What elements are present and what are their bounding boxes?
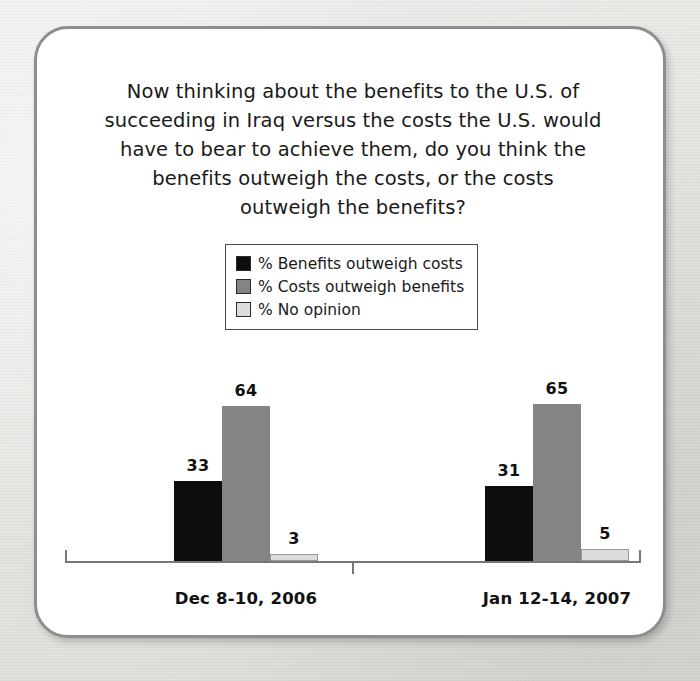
- bar-value-label: 3: [254, 529, 334, 548]
- category-axis-label: Dec 8-10, 2006: [104, 589, 388, 608]
- bar-value-label: 64: [206, 381, 286, 400]
- bar-chart-plot-area: 33643Dec 8-10, 200631655Jan 12-14, 2007: [37, 29, 666, 638]
- axis-tick-center-divider: [352, 563, 354, 574]
- bar-3-group-1: [270, 554, 318, 561]
- bar-1-group-1: [174, 481, 222, 561]
- bar-value-label: 65: [517, 379, 597, 398]
- axis-tick-right: [639, 550, 641, 561]
- axis-tick-left: [65, 550, 67, 561]
- category-axis-label: Jan 12-14, 2007: [415, 589, 666, 608]
- bar-value-label: 5: [565, 524, 645, 543]
- poll-chart-card: Now thinking about the benefits to the U…: [34, 26, 666, 638]
- bar-1-group-2: [485, 486, 533, 561]
- bar-3-group-2: [581, 549, 629, 561]
